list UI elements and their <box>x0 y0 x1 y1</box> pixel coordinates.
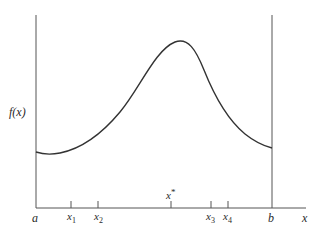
x4-label: x4 <box>222 210 232 225</box>
x3-label: x3 <box>205 210 215 225</box>
b-label: b <box>268 211 274 225</box>
x2-label: x2 <box>93 210 103 225</box>
fx-label: f(x) <box>9 105 26 119</box>
a-label: a <box>32 211 38 225</box>
x-axis-label: x <box>301 211 308 225</box>
unimodal-function-diagram: f(x) x* a x1 x2 x3 x4 b x <box>0 0 326 230</box>
function-curve <box>36 41 272 154</box>
xstar-label: x* <box>165 187 176 201</box>
x1-label: x1 <box>66 210 76 225</box>
